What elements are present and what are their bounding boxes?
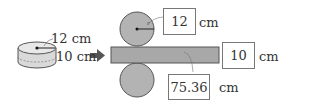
top-roller-icon — [120, 12, 163, 46]
length-unit: cm — [219, 81, 239, 94]
thickness-answer-box[interactable]: 10 — [222, 42, 255, 69]
roller-radius-symbol: r — [147, 20, 149, 26]
thickness-unit: cm — [259, 50, 279, 63]
cylinder-height-label: 10 cm — [56, 50, 96, 63]
radius-answer-box[interactable]: 12 — [163, 8, 196, 35]
cylinder-radius-label: 12 cm — [51, 32, 91, 45]
bottom-roller-icon — [120, 63, 154, 97]
radius-unit: cm — [199, 16, 219, 29]
length-answer-box[interactable]: 75.36 — [168, 74, 210, 100]
